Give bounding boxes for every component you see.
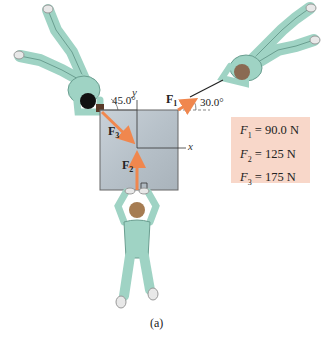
f1-angle-label: 30.0°: [200, 96, 224, 108]
person-top-right: [190, 4, 320, 97]
rope: [190, 80, 223, 97]
given-f3: F3 = 175 N: [231, 168, 310, 192]
given-f2: F2 = 125 N: [231, 145, 310, 169]
figure-caption: (a): [150, 316, 163, 331]
person-top-left: [14, 5, 104, 112]
f3-angle-label: 45.0°: [112, 94, 136, 106]
given-f1: F1 = 90.0 N: [231, 121, 310, 145]
f1-label: F1: [166, 92, 177, 108]
x-axis-label: x: [188, 140, 193, 152]
f3-label: F3: [108, 124, 119, 140]
given-values-box: F1 = 90.0 N F2 = 125 N F3 = 175 N: [231, 117, 310, 183]
f2-label: F2: [122, 158, 133, 174]
force-f1-arrow: [178, 101, 193, 110]
person-bottom: [116, 188, 158, 308]
